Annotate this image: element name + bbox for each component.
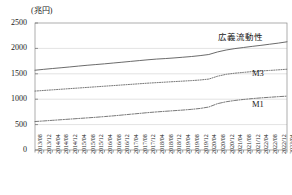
x-tick-label: 2022/08	[272, 134, 278, 154]
x-tick-label: 2016/04	[107, 134, 113, 154]
x-tick-label: 2017/12	[150, 134, 156, 154]
x-tick-label: 2017/04	[133, 134, 139, 154]
x-tick-label: 2019/04	[185, 134, 191, 154]
money-stock-line-chart: (兆円) 05001000150020002500 2013/082013/12…	[0, 0, 292, 195]
x-tick-label: 2019/08	[194, 134, 200, 154]
x-tick-label: 2016/12	[124, 134, 130, 154]
x-tick-label: 2017/08	[142, 134, 148, 154]
series-label: 広義流動性	[218, 30, 263, 42]
x-tick-label: 2018/08	[168, 134, 174, 154]
x-tick-label: 2015/08	[90, 134, 96, 154]
series-label: M1	[252, 99, 264, 109]
series-label: M3	[252, 68, 264, 78]
x-tick-label: 2019/12	[203, 134, 209, 154]
x-tick-label: 2013/12	[46, 134, 52, 154]
x-tick-label: 2015/12	[98, 134, 104, 154]
x-tick-label: 2018/12	[176, 134, 182, 154]
x-tick-label: 2020/04	[211, 134, 217, 154]
x-tick-label: 2020/08	[220, 134, 226, 154]
x-tick-label: 2015/04	[81, 134, 87, 154]
x-tick-label: 2023/04	[289, 134, 292, 154]
x-tick-label: 2022/04	[263, 134, 269, 154]
x-tick-label: 2021/08	[246, 134, 252, 154]
x-tick-label: 2021/12	[255, 134, 261, 154]
x-tick-label: 2018/04	[159, 134, 165, 154]
x-tick-label: 2014/12	[72, 134, 78, 154]
x-tick-label: 2020/12	[229, 134, 235, 154]
x-tick-label: 2016/08	[116, 134, 122, 154]
x-tick-label: 2014/04	[55, 134, 61, 154]
x-tick-label: 2022/12	[281, 134, 287, 154]
x-tick-label: 2014/08	[63, 134, 69, 154]
x-tick-label: 2013/08	[37, 134, 43, 154]
x-tick-label: 2021/04	[237, 134, 243, 154]
